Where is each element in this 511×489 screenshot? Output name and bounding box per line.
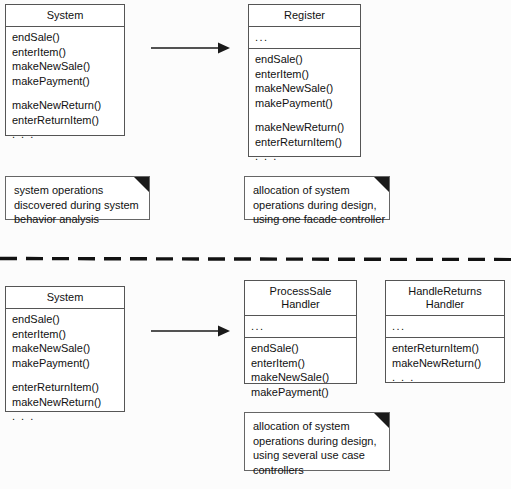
operation-item: makeNewSale(): [12, 59, 118, 74]
operation-item: makeNewReturn(): [255, 120, 354, 135]
operation-item: enterItem(): [12, 327, 118, 342]
operation-item: makeNewSale(): [251, 370, 350, 385]
note-text: allocation of system operations during d…: [245, 413, 389, 482]
class-box-system-top[interactable]: System endSale() enterItem() makeNewSale…: [5, 4, 125, 136]
operation-item: makePayment(): [12, 74, 118, 89]
operation-item: makeNewSale(): [255, 81, 354, 96]
attributes-ellipsis: ...: [255, 30, 354, 44]
operation-item: enterItem(): [251, 356, 350, 371]
operation-item: makePayment(): [255, 96, 354, 111]
note-system-operations-discovered[interactable]: system operations discovered during syst…: [5, 176, 150, 220]
class-box-process-sale-handler[interactable]: ProcessSale Handler ... endSale() enterI…: [244, 280, 357, 384]
note-line: operations during design,: [253, 434, 381, 449]
operation-group-spacer: [255, 110, 354, 120]
operation-item: enterItem(): [12, 45, 118, 60]
class-operations-compartment: endSale() enterItem() makeNewSale() make…: [6, 26, 124, 145]
note-line: using one facade controller: [253, 212, 381, 227]
note-fold-icon: [374, 177, 389, 192]
arrow-right-icon: [150, 321, 232, 341]
note-text: allocation of system operations during d…: [245, 177, 389, 232]
class-name-label-line1: HandleReturns: [392, 285, 498, 298]
note-use-case-controllers-allocation[interactable]: allocation of system operations during d…: [244, 412, 390, 471]
operation-group-spacer: [12, 370, 118, 380]
class-operations-compartment: endSale() enterItem() makeNewSale() make…: [6, 308, 124, 427]
operation-item: makeNewSale(): [12, 341, 118, 356]
note-line: system operations: [14, 183, 141, 198]
class-name-label-line2: Handler: [251, 298, 350, 311]
note-fold-icon: [134, 177, 149, 192]
class-box-handle-returns-handler[interactable]: HandleReturns Handler ... enterReturnIte…: [385, 280, 505, 383]
class-name-label-line2: Handler: [392, 298, 498, 311]
operation-item: makePayment(): [12, 356, 118, 371]
class-box-register[interactable]: Register ... endSale() enterItem() makeN…: [248, 4, 361, 157]
dashed-line-icon: [0, 256, 511, 261]
class-name-compartment: ProcessSale Handler: [245, 281, 356, 315]
operation-ellipsis: . . .: [12, 409, 118, 423]
operation-item: makePayment(): [251, 385, 350, 400]
uml-diagram-canvas: System endSale() enterItem() makeNewSale…: [0, 0, 511, 489]
note-text: system operations discovered during syst…: [6, 177, 149, 232]
arrow-system-to-handlers: [150, 321, 232, 341]
operation-item: endSale(): [12, 30, 118, 45]
operation-item: makeNewReturn(): [12, 395, 118, 410]
note-line: allocation of system: [253, 183, 381, 198]
class-name-compartment: System: [6, 5, 124, 26]
class-attributes-compartment: ...: [249, 26, 360, 48]
class-attributes-compartment: ...: [245, 315, 356, 337]
class-name-label: Register: [255, 9, 354, 22]
class-name-label: System: [12, 291, 118, 304]
class-name-compartment: System: [6, 287, 124, 308]
operation-item: enterReturnItem(): [255, 135, 354, 150]
operation-item: enterReturnItem(): [392, 341, 498, 356]
note-line: allocation of system: [253, 419, 381, 434]
operation-item: makeNewReturn(): [12, 98, 118, 113]
operation-group-spacer: [12, 88, 118, 98]
class-name-label-line1: ProcessSale: [251, 285, 350, 298]
arrow-system-to-register: [150, 38, 232, 58]
operation-item: enterReturnItem(): [12, 113, 118, 128]
operation-item: endSale(): [251, 341, 350, 356]
class-operations-compartment: enterReturnItem() makeNewReturn() . . .: [386, 337, 504, 388]
note-facade-controller-allocation[interactable]: allocation of system operations during d…: [244, 176, 390, 220]
note-line: operations during design,: [253, 198, 381, 213]
note-line: behavior analysis: [14, 212, 141, 227]
operation-ellipsis: . . .: [392, 370, 498, 384]
operation-item: makeNewReturn(): [392, 356, 498, 371]
note-fold-icon: [374, 413, 389, 428]
arrow-right-icon: [150, 38, 232, 58]
class-box-system-bottom[interactable]: System endSale() enterItem() makeNewSale…: [5, 286, 125, 412]
attributes-ellipsis: ...: [392, 319, 498, 333]
operation-item: enterReturnItem(): [12, 380, 118, 395]
operation-ellipsis: . . .: [12, 127, 118, 141]
class-operations-compartment: endSale() enterItem() makeNewSale() make…: [249, 48, 360, 167]
note-line: controllers: [253, 463, 381, 478]
class-name-label: System: [12, 9, 118, 22]
operation-ellipsis: . . .: [255, 149, 354, 163]
operation-item: endSale(): [12, 312, 118, 327]
class-name-compartment: HandleReturns Handler: [386, 281, 504, 315]
section-divider: [0, 247, 511, 252]
operation-item: enterItem(): [255, 67, 354, 82]
class-attributes-compartment: ...: [386, 315, 504, 337]
class-name-compartment: Register: [249, 5, 360, 26]
attributes-ellipsis: ...: [251, 319, 350, 333]
class-operations-compartment: endSale() enterItem() makeNewSale() make…: [245, 337, 356, 403]
operation-item: endSale(): [255, 52, 354, 67]
note-line: using several use case: [253, 448, 381, 463]
note-line: discovered during system: [14, 198, 141, 213]
